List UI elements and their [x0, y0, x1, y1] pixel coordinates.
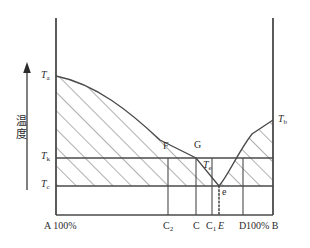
tick-label-C1: C1 [206, 221, 216, 233]
phase-diagram-canvas [0, 0, 310, 248]
label-point-G: G [194, 140, 201, 150]
label-Tc: Tc [41, 179, 50, 191]
tick-label-D: D [239, 221, 246, 231]
label-Ta-sub: a [47, 74, 50, 82]
label-point-F: F [163, 141, 169, 151]
label-Tk: Tk [41, 151, 50, 163]
label-Tk-sub: k [47, 155, 51, 163]
y-axis-title: 温度 [14, 116, 28, 141]
label-Te-sub: e [209, 164, 212, 172]
x-axis-left-label: A 100% [44, 221, 77, 231]
label-Ta: Ta [41, 70, 50, 82]
label-Tb: Tb [278, 114, 287, 126]
tick-label-C2-sub: 2 [170, 225, 174, 233]
label-point-e: e [222, 187, 226, 197]
x-axis-right-label: 100% B [246, 221, 279, 231]
tick-label-E: E [218, 221, 224, 231]
label-Tb-sub: b [284, 118, 288, 126]
tick-label-C2-base: C [163, 220, 170, 231]
tick-label-C2: C2 [163, 221, 173, 233]
phase-diagram-figure: 温度 Ta Tb Tk Tc Te F G e A 100% 100% B C2… [0, 0, 310, 248]
tick-label-C: C [193, 221, 200, 231]
label-Te: Te [203, 160, 212, 172]
label-Tc-sub: c [47, 183, 50, 191]
tick-label-C1-sub: 1 [213, 225, 217, 233]
tick-label-C1-base: C [206, 220, 213, 231]
